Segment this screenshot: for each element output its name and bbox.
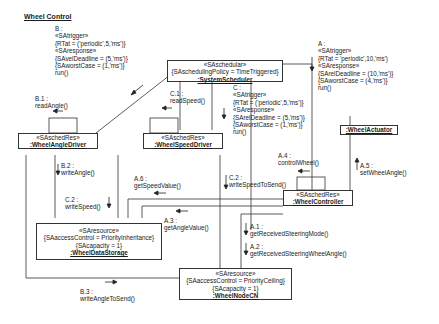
message-operation: writeSpeedToSend() bbox=[229, 181, 286, 188]
message-id: A.5 : bbox=[356, 162, 407, 169]
message-operation: getReceivedSteeringMode() bbox=[250, 230, 328, 237]
object-attribute: {SAcapacity = 1} bbox=[37, 242, 161, 249]
message-b1: B.1 : readAngle() bbox=[35, 95, 68, 110]
response-deadline: {SArelDeadline = (10,'ms')} bbox=[318, 70, 393, 77]
message-operation: getAngleValue() bbox=[164, 224, 209, 231]
message-id: B.3 : bbox=[80, 288, 135, 295]
trigger-id: B : bbox=[55, 25, 128, 32]
wheel-actuator-object[interactable]: :WheelActuator bbox=[340, 125, 398, 135]
object-stereotype: «SAresource» bbox=[37, 227, 161, 234]
message-id: C.2 : bbox=[65, 196, 101, 203]
trigger-rtat: {RTat = ('periodic',5,'ms')} bbox=[233, 99, 305, 106]
message-c2-writespeedtosend: C.2 : writeSpeedToSend() bbox=[229, 174, 286, 189]
object-name: :WheelDataStorage bbox=[37, 249, 161, 256]
system-scheduler-object[interactable]: «SAschedular» {SAschedulingPolicy = Time… bbox=[167, 60, 283, 82]
response-deadline: {SArelDeadline = (5,'ms')} bbox=[233, 114, 305, 121]
trigger-operation: run() bbox=[318, 84, 393, 91]
response-stereotype: «SAresponse» bbox=[55, 47, 128, 54]
trigger-b-note: B : «SAtrigger» {RTat = ('periodic',5,'m… bbox=[55, 25, 128, 77]
trigger-rtat: {RTat = 'periodic',10,'ms') bbox=[318, 55, 393, 62]
object-stereotype: «SAresource» bbox=[180, 270, 291, 277]
message-c2-writespeed: C.2 : writeSpeed() bbox=[65, 196, 101, 211]
wheel-node-cn-object[interactable]: «SAresource» {SAaccessControl = Priority… bbox=[179, 268, 292, 300]
trigger-stereotype: «SAtrigger» bbox=[55, 32, 128, 39]
message-b2: B.2 : writeAngle() bbox=[61, 162, 95, 177]
message-id: C.2 : bbox=[229, 174, 286, 181]
message-id: A.4 : bbox=[278, 152, 319, 159]
response-stereotype: «SAresponse» bbox=[318, 62, 393, 69]
trigger-operation: run() bbox=[233, 128, 305, 135]
trigger-id: C : bbox=[233, 84, 305, 91]
trigger-stereotype: «SAtrigger» bbox=[318, 47, 393, 54]
object-stereotype: «SAschedRes» bbox=[284, 191, 352, 198]
wheel-data-storage-object[interactable]: «SAresource» {SAaccessControl = Priority… bbox=[36, 223, 162, 260]
trigger-id: A : bbox=[318, 40, 393, 47]
message-operation: getReceivedSteeringWheelAngle() bbox=[250, 250, 347, 257]
object-name: :WheelController bbox=[284, 198, 352, 205]
message-c1: C.1 : readSpeed() bbox=[170, 90, 205, 105]
response-deadline: {SAvelDeadline = (5,'ms')} bbox=[55, 55, 128, 62]
trigger-stereotype: «SAtrigger» bbox=[233, 91, 305, 98]
message-id: A.2 : bbox=[250, 243, 347, 250]
message-b3: B.3 : writeAngleToSend() bbox=[80, 288, 135, 303]
message-operation: getSpeedValue() bbox=[134, 182, 181, 189]
message-a5: A.5 : setWheelAngle() bbox=[356, 162, 407, 177]
message-operation: writeAngle() bbox=[61, 169, 95, 176]
response-worstcase: {SAworstCase = (1,'ms')} bbox=[55, 62, 128, 69]
object-attribute: {SAschedulingPolicy = TimeTriggered} bbox=[168, 68, 282, 75]
trigger-c-note: C : «SAtrigger» {RTat = ('periodic',5,'m… bbox=[233, 84, 305, 136]
message-operation: writeAngleToSend() bbox=[80, 295, 135, 302]
wheel-controller-object[interactable]: «SAschedRes» :WheelController bbox=[283, 190, 353, 206]
message-id: A.1 : bbox=[250, 223, 328, 230]
object-name: :WheelAngleDriver bbox=[19, 141, 97, 148]
object-attribute: {SAcapacity = 1} bbox=[180, 285, 291, 292]
object-attribute: {SAaccessControl = PriorityCeiling} bbox=[180, 277, 291, 284]
object-name: :SystemScheduler bbox=[168, 76, 282, 83]
object-attribute: {SAaccessControl = PriorityInheritance} bbox=[37, 234, 161, 241]
message-operation: readSpeed() bbox=[170, 97, 205, 104]
message-id: B.1 : bbox=[35, 95, 68, 102]
message-a1: A.1 : getReceivedSteeringMode() bbox=[250, 223, 328, 238]
message-a6: A.6 : getSpeedValue() bbox=[134, 175, 181, 190]
object-stereotype: «SAschedRes» bbox=[19, 134, 97, 141]
message-a3: A.3 : getAngleValue() bbox=[164, 217, 209, 232]
message-id: C.1 : bbox=[170, 90, 205, 97]
object-stereotype: «SAschedRes» bbox=[144, 134, 222, 141]
wheel-angle-driver-object[interactable]: «SAschedRes» :WheelAngleDriver bbox=[18, 133, 98, 149]
response-worstcase: {SAworstCase = (4,'ms')} bbox=[318, 77, 393, 84]
response-stereotype: «SAresponse» bbox=[233, 106, 305, 113]
message-id: A.6 : bbox=[134, 175, 181, 182]
message-operation: writeSpeed() bbox=[65, 203, 101, 210]
trigger-operation: run() bbox=[55, 69, 128, 76]
message-id: B.2 : bbox=[61, 162, 95, 169]
trigger-a-note: A : «SAtrigger» {RTat = 'periodic',10,'m… bbox=[318, 40, 393, 92]
response-worstcase: {SAworstCase = (1,'ms')} bbox=[233, 121, 305, 128]
object-stereotype: «SAschedular» bbox=[168, 61, 282, 68]
message-operation: setWheelAngle() bbox=[356, 169, 407, 176]
object-name: :WheelNodeCN bbox=[180, 292, 291, 299]
message-id: A.3 : bbox=[164, 217, 209, 224]
message-operation: controlWheel() bbox=[278, 159, 319, 166]
trigger-rtat: {RTat = ('periodic',5,'ms')} bbox=[55, 40, 128, 47]
diagram-title: Wheel Control bbox=[24, 13, 71, 20]
message-a4: A.4 : controlWheel() bbox=[278, 152, 319, 167]
object-name: :WheelActuator bbox=[341, 126, 397, 133]
object-name: :WheelSpeedDriver bbox=[144, 141, 222, 148]
wheel-speed-driver-object[interactable]: «SAschedRes» :WheelSpeedDriver bbox=[143, 133, 223, 149]
message-a2: A.2 : getReceivedSteeringWheelAngle() bbox=[250, 243, 347, 258]
message-operation: readAngle() bbox=[35, 102, 68, 109]
